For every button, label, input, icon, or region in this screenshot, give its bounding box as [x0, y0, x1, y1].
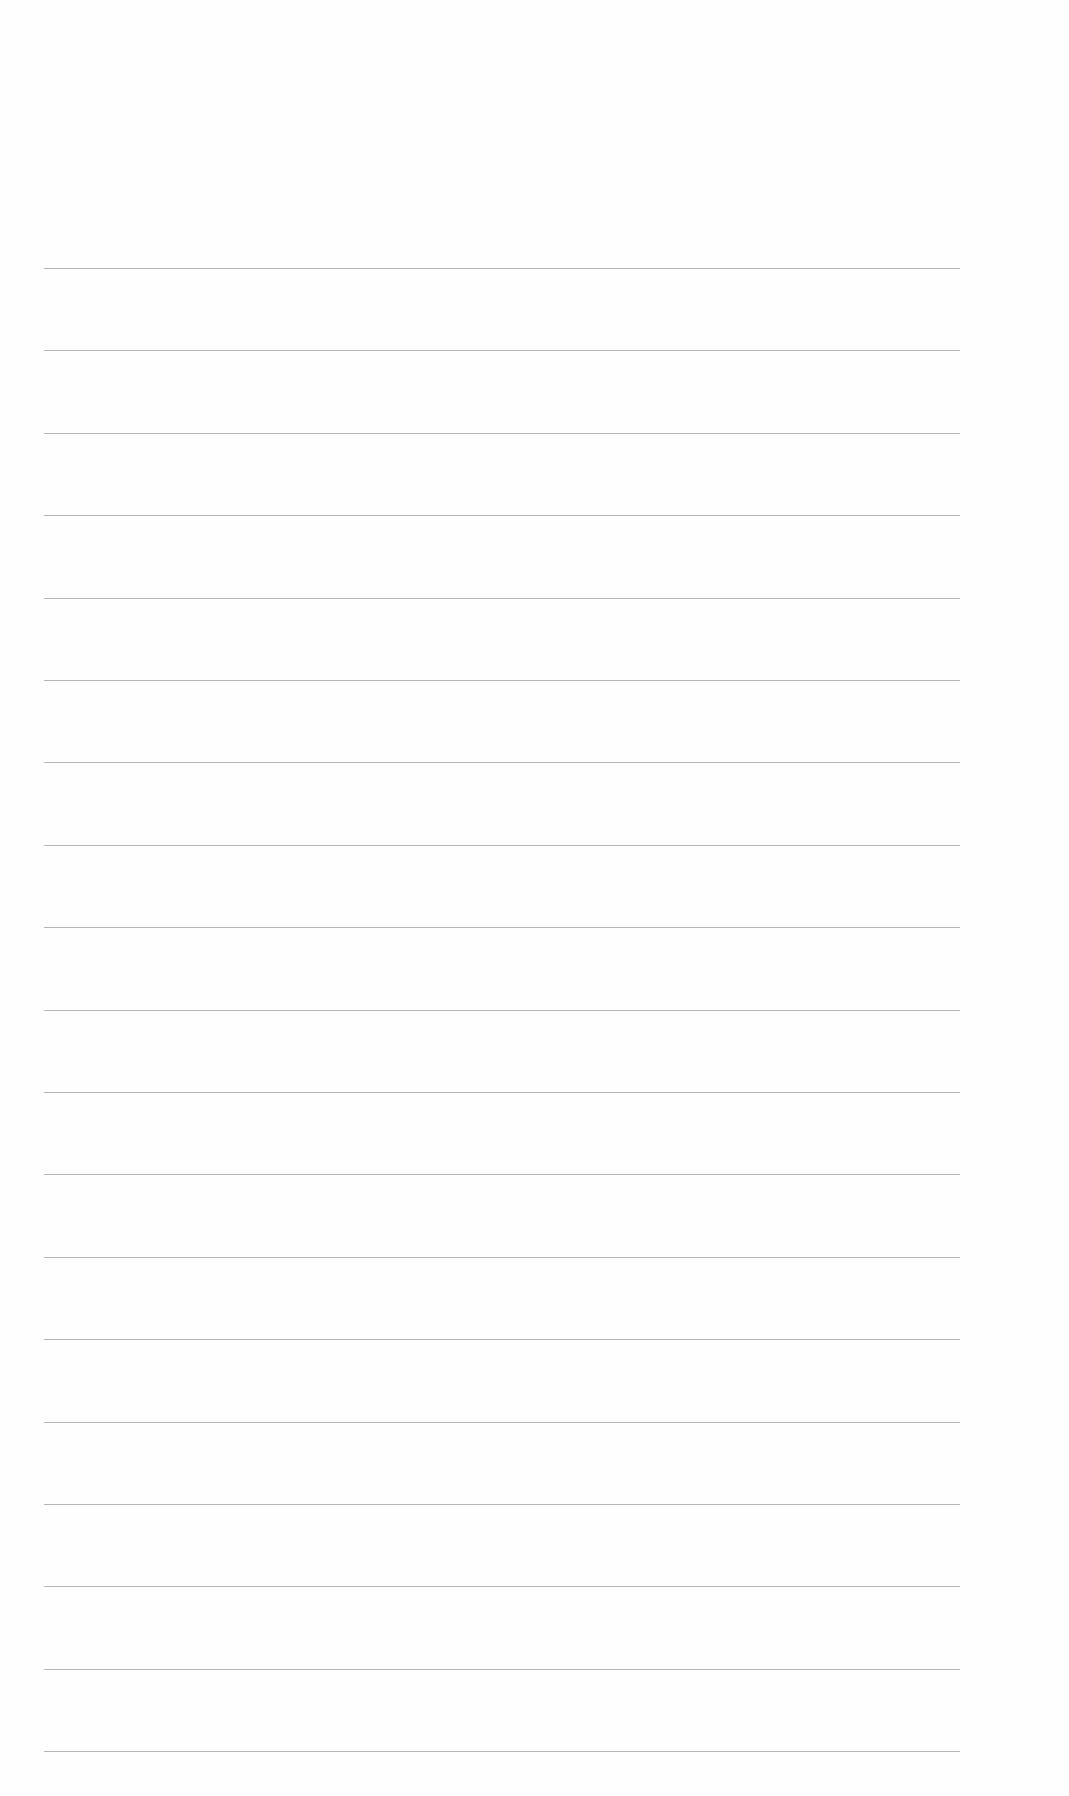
- lined-paper-page: [0, 0, 1069, 1796]
- ruled-line: [44, 927, 960, 928]
- ruled-line: [44, 1174, 960, 1175]
- ruled-line: [44, 433, 960, 434]
- ruled-line: [44, 1422, 960, 1423]
- ruled-line: [44, 1339, 960, 1340]
- ruled-line: [44, 845, 960, 846]
- ruled-line: [44, 515, 960, 516]
- ruled-line: [44, 1751, 960, 1752]
- ruled-line: [44, 268, 960, 269]
- ruled-line: [44, 1257, 960, 1258]
- ruled-line: [44, 680, 960, 681]
- ruled-line: [44, 1586, 960, 1587]
- ruled-line: [44, 350, 960, 351]
- ruled-line: [44, 762, 960, 763]
- ruled-line: [44, 1010, 960, 1011]
- ruled-line: [44, 1504, 960, 1505]
- ruled-line: [44, 1669, 960, 1670]
- ruled-line: [44, 598, 960, 599]
- ruled-line: [44, 1092, 960, 1093]
